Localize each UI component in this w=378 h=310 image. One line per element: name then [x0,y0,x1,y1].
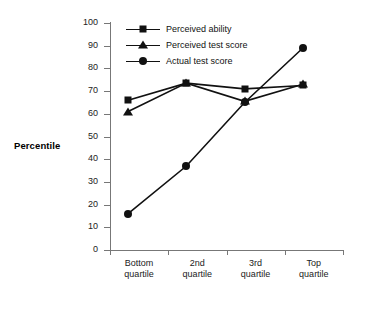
legend-marker-sample [126,23,160,35]
legend-item[interactable]: Perceived ability [126,22,248,36]
x-tick-mark [168,250,169,255]
series-line [128,48,303,214]
circle-marker-icon [139,57,147,65]
data-point-square-marker-icon [241,85,248,92]
legend-marker-sample [126,39,160,51]
data-point-triangle-marker-icon [298,80,308,88]
legend-item[interactable]: Actual test score [126,54,248,68]
data-point-circle-marker-icon [182,162,190,170]
legend-item[interactable]: Perceived test score [126,38,248,52]
y-tick-label: 40 [0,153,98,163]
square-marker-icon [140,26,147,33]
x-tick-label: Topquartile [279,258,349,280]
y-tick-label: 20 [0,199,98,209]
legend-item-label: Actual test score [166,56,233,66]
x-tick-mark [343,250,344,255]
triangle-marker-icon [138,41,148,49]
legend-item-label: Perceived ability [166,24,232,34]
y-tick-label: 90 [0,40,98,50]
data-point-circle-marker-icon [124,210,132,218]
x-tick-mark [285,250,286,255]
y-tick-label: 50 [0,131,98,141]
y-tick-label: 10 [0,221,98,231]
x-tick-mark [110,250,111,255]
x-tick-label-line: quartile [279,269,349,280]
y-tick-label: 0 [0,244,98,254]
chart-container: Percentile 0102030405060708090100 Bottom… [0,0,378,310]
y-tick-label: 60 [0,108,98,118]
legend-item-label: Perceived test score [166,40,248,50]
data-point-circle-marker-icon [241,98,249,106]
y-tick-label: 100 [0,17,98,27]
data-point-square-marker-icon [125,97,132,104]
data-point-triangle-marker-icon [181,79,191,87]
x-tick-mark [227,250,228,255]
chart-legend: Perceived abilityPerceived test scoreAct… [126,22,248,70]
y-axis-title: Percentile [14,140,60,151]
data-point-circle-marker-icon [299,44,307,52]
y-tick-label: 80 [0,62,98,72]
legend-marker-sample [126,55,160,67]
y-tick-label: 30 [0,176,98,186]
data-point-triangle-marker-icon [123,107,133,115]
y-tick-label: 70 [0,85,98,95]
x-tick-label-line: Top [279,258,349,269]
